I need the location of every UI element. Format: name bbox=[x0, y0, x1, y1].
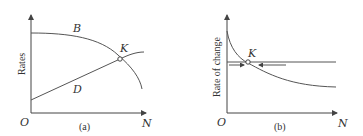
origin-label-a: O bbox=[20, 116, 29, 129]
panel-b: K O N (b) Rate of change bbox=[211, 15, 348, 133]
y-axis-label-b: Rate of change bbox=[211, 36, 222, 97]
diagram-canvas: B D K O N (a) Rates K O N (b) Rate of ch… bbox=[0, 0, 363, 136]
decreasing-rate-curve bbox=[227, 31, 336, 87]
point-k-label-a: K bbox=[119, 42, 129, 55]
curve-b-label: B bbox=[72, 22, 81, 35]
panel-a: B D K O N (a) Rates bbox=[16, 15, 152, 133]
y-axis-label-a: Rates bbox=[16, 53, 27, 75]
x-axis-label-b: N bbox=[337, 117, 348, 130]
origin-label-b: O bbox=[217, 116, 226, 129]
curve-d bbox=[31, 52, 144, 100]
equilibrium-point-k-a bbox=[118, 57, 122, 61]
caption-a: (a) bbox=[79, 121, 90, 133]
curve-d-label: D bbox=[72, 83, 82, 96]
caption-b: (b) bbox=[274, 121, 286, 133]
point-k-label-b: K bbox=[247, 47, 257, 60]
x-axis-label-a: N bbox=[141, 117, 152, 130]
equilibrium-point-k-b bbox=[246, 60, 250, 64]
